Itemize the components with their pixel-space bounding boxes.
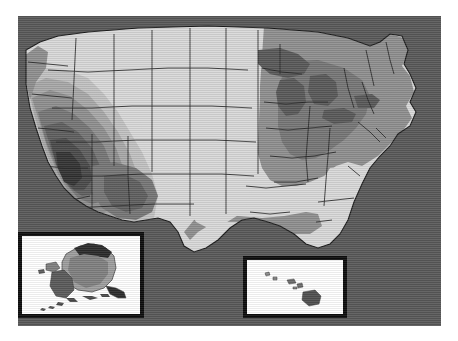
island-oahu: [273, 277, 277, 280]
island-maui: [297, 283, 303, 288]
island-kauai: [265, 272, 270, 276]
us-map-panel: [18, 16, 441, 326]
hawaii-inset-canvas: [247, 260, 343, 314]
island-molokai: [287, 279, 296, 284]
island-lanai: [293, 287, 297, 289]
hawaii-map-svg: [247, 260, 343, 314]
alaska-inset-canvas: [22, 236, 140, 314]
hawaii-inset-frame: [243, 256, 347, 318]
alaska-inset-frame: [18, 232, 144, 318]
figure-container: [0, 0, 458, 341]
alaska-map-svg: [22, 236, 140, 314]
